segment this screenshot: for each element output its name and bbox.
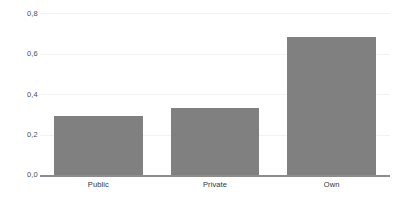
x-tick-label-own: Own bbox=[287, 180, 376, 190]
bar-private[interactable] bbox=[171, 108, 260, 175]
y-tick-label-0.6: 0,6 bbox=[4, 49, 38, 58]
y-tick-label-0.4: 0,4 bbox=[4, 90, 38, 99]
y-tick-label-0.2: 0,2 bbox=[4, 130, 38, 139]
bar-own[interactable] bbox=[287, 37, 376, 175]
x-tick-label-public: Public bbox=[54, 180, 143, 190]
y-tick-label-0.0: 0,0 bbox=[4, 170, 38, 179]
y-tick-label-0.8: 0,8 bbox=[4, 9, 38, 18]
x-axis-line bbox=[40, 175, 390, 177]
y-axis-tick-labels: 0,8 0,6 0,4 0,2 0,0 bbox=[0, 0, 38, 198]
bars-layer bbox=[40, 13, 390, 175]
bar-public[interactable] bbox=[54, 116, 143, 175]
bar-chart: 0,8 0,6 0,4 0,2 0,0 Public Private Own bbox=[0, 0, 407, 198]
x-tick-label-private: Private bbox=[171, 180, 260, 190]
